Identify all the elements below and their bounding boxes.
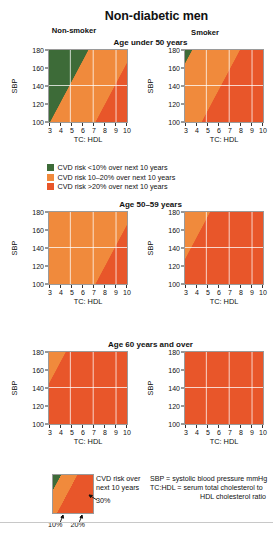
x-tick-label: 4 <box>195 429 199 436</box>
risk-fill <box>184 351 264 425</box>
x-tick-label: 7 <box>228 289 232 296</box>
x-axis-label: TC: HDL <box>184 437 264 446</box>
x-tick-label: 3 <box>48 429 52 436</box>
y-tick-label: 180 <box>168 47 180 54</box>
panel-under50-non-smoker: SBP 180 160 140 120 100 3 4 5 6 <box>14 46 134 138</box>
y-tick-label: 100 <box>32 281 44 288</box>
x-tick-label: 9 <box>114 127 118 134</box>
y-tick-label: 120 <box>168 403 180 410</box>
x-tick-label: 5 <box>206 127 210 134</box>
x-axis-label: TC: HDL <box>184 135 264 144</box>
risk-fill <box>48 211 128 285</box>
x-tick-label: 4 <box>59 289 63 296</box>
x-tick-label: 6 <box>81 127 85 134</box>
legend-caption: CVD risk over next 10 years <box>96 475 146 492</box>
bottom-legend: CVD risk over next 10 years 30% 10% 20% … <box>0 470 273 530</box>
x-tick-label: 6 <box>81 429 85 436</box>
x-axis-label: TC: HDL <box>48 297 128 306</box>
x-tick-label: 10 <box>123 289 131 296</box>
y-tick-label: 160 <box>32 227 44 234</box>
panel-50to59-smoker: SBP 180 160 140 120 100 3 4 5 6 <box>150 208 270 300</box>
x-tick-label: 7 <box>228 127 232 134</box>
risk-fill <box>48 351 128 425</box>
x-tick-label: 10 <box>259 429 267 436</box>
x-tick-label: 9 <box>114 429 118 436</box>
x-tick-label: 7 <box>92 429 96 436</box>
x-tick-label: 8 <box>103 127 107 134</box>
y-tick-label: 180 <box>168 349 180 356</box>
y-tick-label: 180 <box>32 209 44 216</box>
y-tick-label: 120 <box>32 403 44 410</box>
risk-fill <box>184 49 264 123</box>
x-axis: 3 4 5 6 7 8 9 10 TC: HDL <box>184 285 264 305</box>
x-axis: 3 4 5 6 7 8 9 10 TC: HDL <box>48 123 128 143</box>
x-tick-label: 9 <box>250 127 254 134</box>
x-tick-label: 9 <box>250 429 254 436</box>
page-title: Non-diabetic men <box>0 9 273 23</box>
x-axis: 3 4 5 6 7 8 9 10 TC: HDL <box>48 285 128 305</box>
x-tick-label: 5 <box>70 429 74 436</box>
x-tick-label: 3 <box>184 429 188 436</box>
x-tick-label: 10 <box>259 289 267 296</box>
x-tick-label: 8 <box>239 429 243 436</box>
y-tick-label: 180 <box>32 349 44 356</box>
y-tick-label: 100 <box>168 281 180 288</box>
x-tick-label: 8 <box>239 289 243 296</box>
y-axis: 180 160 140 120 100 <box>150 49 184 123</box>
x-tick-label: 10 <box>259 127 267 134</box>
panel-under50-smoker: SBP 180 160 140 120 100 3 4 5 6 <box>150 46 270 138</box>
y-tick-label: 160 <box>168 65 180 72</box>
x-tick-label: 7 <box>228 429 232 436</box>
risk-legend: CVD risk <10% over next 10 years CVD ris… <box>47 163 175 192</box>
x-tick-label: 5 <box>70 127 74 134</box>
x-tick-label: 5 <box>206 289 210 296</box>
x-axis-label: TC: HDL <box>48 135 128 144</box>
y-tick-label: 100 <box>168 421 180 428</box>
abbreviation-definitions: SBP = systolic blood pressure mmHg TC:HD… <box>150 475 272 501</box>
x-tick-label: 4 <box>195 127 199 134</box>
heatmap-60plus-smoker <box>184 351 264 425</box>
y-tick-label: 100 <box>168 119 180 126</box>
legend-item: CVD risk 10–20% over next 10 years <box>47 173 175 182</box>
x-tick-label: 4 <box>59 429 63 436</box>
y-tick-label: 160 <box>32 65 44 72</box>
y-tick-label: 140 <box>168 83 180 90</box>
heatmap-50to59-smoker <box>184 211 264 285</box>
definition-sbp: SBP = systolic blood pressure mmHg <box>150 475 272 484</box>
y-tick-label: 120 <box>32 263 44 270</box>
x-tick-label: 7 <box>92 289 96 296</box>
legend-label: CVD risk <10% over next 10 years <box>58 163 168 172</box>
legend-swatch-medium-risk <box>47 174 54 181</box>
y-tick-label: 120 <box>32 101 44 108</box>
legend-item: CVD risk >20% over next 10 years <box>47 183 175 192</box>
legend-label: CVD risk >20% over next 10 years <box>58 182 168 191</box>
x-tick-label: 6 <box>217 127 221 134</box>
column-header-non-smoker: Non-smoker <box>14 26 134 35</box>
x-axis: 3 4 5 6 7 8 9 10 TC: HDL <box>184 425 264 445</box>
risk-fill <box>48 49 128 123</box>
panel-60plus-smoker: SBP 180 160 140 120 100 3 4 5 6 <box>150 348 270 440</box>
x-tick-label: 6 <box>217 429 221 436</box>
x-tick-label: 3 <box>184 127 188 134</box>
y-tick-label: 160 <box>168 367 180 374</box>
y-axis: 180 160 140 120 100 <box>150 351 184 425</box>
y-axis: 180 160 140 120 100 <box>14 211 48 285</box>
x-tick-label: 10 <box>123 429 131 436</box>
x-tick-label: 5 <box>70 289 74 296</box>
x-tick-label: 3 <box>48 127 52 134</box>
x-axis: 3 4 5 6 7 8 9 10 TC: HDL <box>184 123 264 143</box>
y-tick-label: 120 <box>168 263 180 270</box>
heatmap-under50-non-smoker <box>48 49 128 123</box>
risk-fill <box>184 211 264 285</box>
heatmap-50to59-non-smoker <box>48 211 128 285</box>
y-tick-label: 140 <box>32 245 44 252</box>
y-tick-label: 140 <box>32 385 44 392</box>
x-tick-label: 9 <box>114 289 118 296</box>
x-tick-label: 5 <box>206 429 210 436</box>
x-axis-label: TC: HDL <box>184 297 264 306</box>
x-tick-label: 10 <box>123 127 131 134</box>
y-tick-label: 100 <box>32 421 44 428</box>
y-tick-label: 140 <box>32 83 44 90</box>
y-tick-label: 140 <box>168 385 180 392</box>
y-tick-label: 160 <box>168 227 180 234</box>
